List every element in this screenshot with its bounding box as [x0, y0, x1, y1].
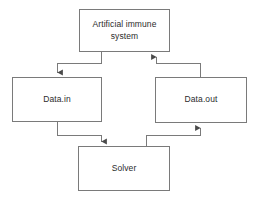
- node-artificial-immune-system[interactable]: Artificial immune system: [79, 9, 170, 52]
- node-data-in[interactable]: Data.in: [12, 77, 102, 122]
- node-data-out-label: Data.out: [181, 94, 222, 105]
- edge-ais-to-in: [58, 52, 102, 73]
- node-data-out[interactable]: Data.out: [155, 77, 247, 123]
- edge-solver-to-out: [147, 128, 201, 146]
- node-data-in-label: Data.in: [39, 94, 75, 105]
- edge-out-to-ais: [157, 57, 201, 77]
- node-artificial-immune-system-label: Artificial immune system: [88, 19, 160, 42]
- edge-in-to-solver: [58, 122, 102, 142]
- node-solver[interactable]: Solver: [78, 146, 170, 191]
- diagram-canvas: Artificial immune system Data.in Data.ou…: [0, 0, 256, 199]
- node-solver-label: Solver: [108, 163, 141, 174]
